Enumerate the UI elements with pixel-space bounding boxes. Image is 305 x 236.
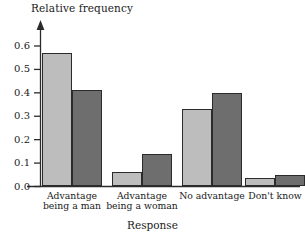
y-tick-label: 0.3 <box>6 111 30 121</box>
x-axis-label: Response <box>0 219 305 231</box>
bar-chart-figure: Relative frequency 0.00.10.20.30.40.50.6… <box>0 0 305 236</box>
bar <box>245 178 275 186</box>
bar <box>212 93 242 187</box>
y-tick-label: 0.0 <box>6 182 30 192</box>
y-tick-label: 0.1 <box>6 158 30 168</box>
bar <box>182 109 212 186</box>
y-tick-label: 0.5 <box>6 64 30 74</box>
y-axis-ticks <box>34 46 41 187</box>
bar <box>112 172 142 186</box>
y-tick-label: 0.4 <box>6 88 30 98</box>
y-tick-label: 0.6 <box>6 41 30 51</box>
bar <box>275 175 305 187</box>
bar <box>42 53 72 186</box>
y-tick-label: 0.2 <box>6 135 30 145</box>
y-axis-arrow <box>37 20 45 30</box>
bar <box>72 90 102 186</box>
x-category-label: Don't know <box>232 191 305 201</box>
bar <box>142 154 172 187</box>
